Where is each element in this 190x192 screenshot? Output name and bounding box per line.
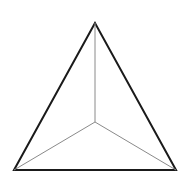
triangle-figure	[0, 0, 190, 192]
figure-canvas	[0, 0, 190, 192]
